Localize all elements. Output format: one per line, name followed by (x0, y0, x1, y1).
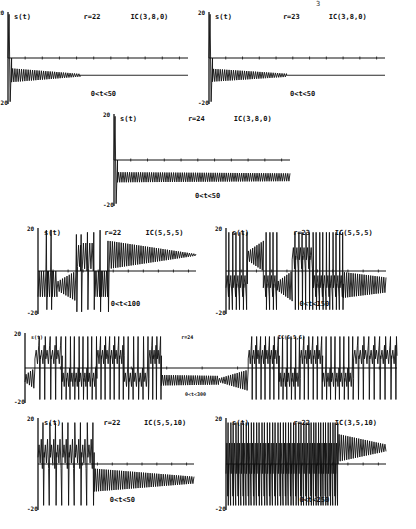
initial-condition-label: IC(3,8,0) (130, 13, 168, 21)
y-tick-label: -20 (215, 309, 226, 316)
y-tick-label: -20 (14, 398, 25, 405)
series-label: s(t) (44, 229, 61, 237)
plot-panel: s(t)r=23IC(5,5,5)0<t<15020-20 (226, 228, 386, 314)
parameter-label: r=22 (104, 419, 121, 427)
series-label: s(t) (120, 115, 137, 123)
y-tick-label: 20 (215, 225, 222, 232)
parameter-label: r=24 (181, 334, 193, 340)
series-label: s(t) (14, 13, 31, 21)
y-tick-label: -20 (198, 99, 209, 106)
plot-panel: s(t)r=24IC(3,8,0)0<t<5020-20 (114, 114, 290, 206)
time-range-label: 0<t<300 (185, 391, 206, 397)
y-tick-label: 20 (0, 9, 4, 16)
series-label: s(t) (232, 229, 249, 237)
y-tick-label: 20 (198, 9, 205, 16)
plot-panel: s(t)r=22IC(3,8,0)0<t<5020-20 (8, 12, 188, 104)
plot-panel: s(t)r=22IC(5,5,10)0<t<5020-20 (38, 418, 194, 510)
plot-panel: s(t)r=22IC(5,5,5)0<t<10020-20 (38, 228, 196, 314)
y-tick-label: -20 (27, 309, 38, 316)
series-label: s(t) (31, 334, 43, 340)
time-range-label: 0<t<50 (290, 90, 315, 98)
y-tick-label: 20 (14, 330, 21, 337)
series-label: s(t) (44, 419, 61, 427)
time-series-plot (25, 333, 397, 403)
y-tick-label: 20 (27, 415, 34, 422)
plot-panel: s(t)r=23IC(3,8,0)0<t<5020-20 (209, 12, 385, 104)
time-range-label: 0<t<50 (91, 90, 116, 98)
initial-condition-label: IC(3,8,0) (329, 13, 367, 21)
y-tick-label: 20 (215, 415, 222, 422)
y-tick-label: -20 (27, 505, 38, 512)
series-label: s(t) (215, 13, 232, 21)
parameter-label: r=22 (293, 419, 310, 427)
time-range-label: 0<t<250 (300, 496, 330, 504)
parameter-label: r=23 (293, 229, 310, 237)
time-range-label: 0<t<100 (111, 300, 141, 308)
parameter-label: r=22 (104, 229, 121, 237)
page-number-marker: 3 (316, 0, 320, 8)
y-tick-label: 20 (27, 225, 34, 232)
time-range-label: 0<t<150 (300, 300, 330, 308)
plot-panel: s(t)r=22IC(3,5,10)0<t<25020-20 (226, 418, 386, 510)
parameter-label: r=23 (283, 13, 300, 21)
initial-condition-label: IC(5,5,10) (144, 419, 186, 427)
parameter-label: r=22 (84, 13, 101, 21)
initial-condition-label: IC(5,5,5) (335, 229, 373, 237)
time-range-label: 0<t<50 (110, 496, 135, 504)
y-tick-label: -20 (0, 99, 8, 106)
y-tick-label: -20 (215, 505, 226, 512)
initial-condition-label: IC(5,5,5) (278, 334, 305, 340)
series-label: s(t) (232, 419, 249, 427)
plot-panel: s(t)r=24IC(5,5,5)0<t<30020-20 (25, 333, 397, 403)
parameter-label: r=24 (188, 115, 205, 123)
initial-condition-label: IC(3,8,0) (234, 115, 272, 123)
y-tick-label: -20 (103, 201, 114, 208)
y-tick-label: 20 (103, 111, 110, 118)
initial-condition-label: IC(5,5,5) (145, 229, 183, 237)
time-range-label: 0<t<50 (195, 192, 220, 200)
initial-condition-label: IC(3,5,10) (335, 419, 377, 427)
